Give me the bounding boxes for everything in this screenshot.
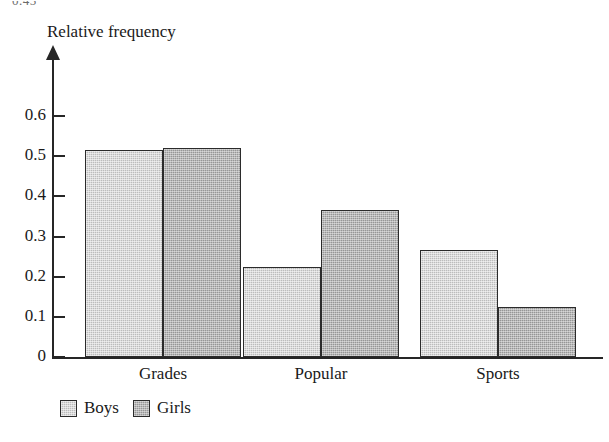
bar-grades-girls	[163, 148, 241, 357]
bar-popular-girls	[321, 210, 399, 357]
bar-sports-girls	[498, 307, 576, 357]
x-axis-label-popular: Popular	[243, 364, 399, 384]
legend-swatch-boys-icon	[60, 400, 77, 417]
bar-popular-boys	[243, 267, 321, 357]
y-axis-tick-label: 0.1	[0, 306, 46, 326]
legend-label-girls: Girls	[157, 398, 191, 418]
y-axis-tick-label: 0.6	[0, 105, 46, 125]
y-axis-title: Relative frequency	[47, 22, 176, 42]
y-axis-tick-label: 0	[0, 346, 46, 366]
legend-item-boys[interactable]: Boys	[60, 398, 119, 418]
y-axis-tick-mark	[54, 316, 65, 318]
x-axis-label-grades: Grades	[85, 364, 241, 384]
y-axis-tick-mark	[54, 276, 65, 278]
y-axis-tick-label: 0.4	[0, 185, 46, 205]
y-axis-tick-mark	[54, 356, 65, 358]
bar-chart: Relative frequency 00.10.20.30.40.50.6 G…	[0, 0, 609, 442]
chart-legend: Boys Girls	[60, 398, 191, 418]
bar-grades-boys	[85, 150, 163, 357]
y-axis-tick-mark	[54, 115, 65, 117]
y-axis-tick-mark	[54, 195, 65, 197]
y-axis-tick-mark	[54, 155, 65, 157]
legend-item-girls[interactable]: Girls	[133, 398, 191, 418]
legend-swatch-girls-icon	[133, 400, 150, 417]
x-axis-line	[52, 357, 603, 359]
x-axis-label-sports: Sports	[420, 364, 576, 384]
y-axis-tick-label: 0.3	[0, 226, 46, 246]
y-axis-line	[52, 57, 54, 358]
y-axis-tick-label: 0.2	[0, 266, 46, 286]
legend-label-boys: Boys	[84, 398, 119, 418]
y-axis-tick-mark	[54, 236, 65, 238]
y-axis-tick-label: 0.5	[0, 145, 46, 165]
bar-sports-boys	[420, 250, 498, 357]
